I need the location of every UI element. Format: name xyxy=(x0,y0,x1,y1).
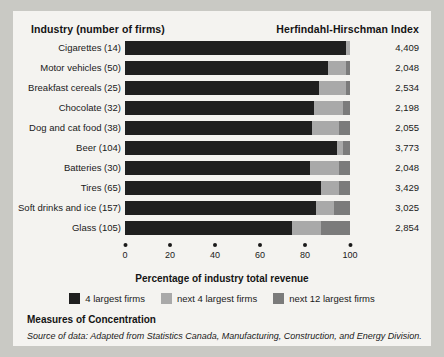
stacked-bar xyxy=(125,201,350,215)
bar-row: Batteries (30)2,048 xyxy=(13,159,431,179)
bar-segment xyxy=(125,61,328,75)
bar-segment xyxy=(339,121,350,135)
bar-row: Chocolate (32)2,198 xyxy=(13,99,431,119)
hhi-value: 2,055 xyxy=(395,122,419,133)
legend-swatch-icon xyxy=(161,293,172,304)
legend-label: 4 largest firms xyxy=(85,293,145,304)
bar-segment xyxy=(343,141,350,155)
stacked-bar xyxy=(125,221,350,235)
bar-segment xyxy=(321,221,350,235)
hhi-column-header: Herfindahl-Hirschman Index xyxy=(276,23,419,35)
hhi-value: 2,198 xyxy=(395,102,419,113)
legend-swatch-icon xyxy=(273,293,284,304)
axis-tick-dot-icon xyxy=(348,243,352,247)
bar-segment xyxy=(125,181,321,195)
bar-segment xyxy=(339,161,350,175)
bar-segment xyxy=(328,61,346,75)
legend-item: 4 largest firms xyxy=(69,293,145,304)
bar-row: Motor vehicles (50)2,048 xyxy=(13,59,431,79)
stacked-bar xyxy=(125,61,350,75)
hhi-value: 2,048 xyxy=(395,62,419,73)
x-axis-title: Percentage of industry total revenue xyxy=(13,273,431,284)
bar-segment xyxy=(321,181,339,195)
stacked-bar xyxy=(125,101,350,115)
axis-tick: 20 xyxy=(165,243,175,260)
chart-header: Industry (number of firms) Herfindahl-Hi… xyxy=(13,23,431,39)
bar-segment xyxy=(337,141,344,155)
bar-segment xyxy=(125,161,310,175)
axis-tick-label: 0 xyxy=(122,250,127,260)
bar-row: Beer (104)3,773 xyxy=(13,139,431,159)
bar-row: Cigarettes (14)4,409 xyxy=(13,39,431,59)
bar-segment xyxy=(292,221,321,235)
hhi-value: 3,773 xyxy=(395,142,419,153)
axis-tick-dot-icon xyxy=(213,243,217,247)
bar-row-label: Glass (105) xyxy=(13,222,121,233)
bar-segment xyxy=(339,181,350,195)
bar-row: Tires (65)3,429 xyxy=(13,179,431,199)
legend-label: next 4 largest firms xyxy=(177,293,257,304)
bar-row-label: Motor vehicles (50) xyxy=(13,62,121,73)
axis-tick: 80 xyxy=(300,243,310,260)
axis-tick-label: 40 xyxy=(210,250,220,260)
bar-row-label: Soft drinks and ice (157) xyxy=(13,202,121,213)
bar-row-label: Batteries (30) xyxy=(13,162,121,173)
hhi-value: 3,025 xyxy=(395,202,419,213)
bar-row: Breakfast cereals (25)2,534 xyxy=(13,79,431,99)
stacked-bar xyxy=(125,81,350,95)
axis-tick-dot-icon xyxy=(258,243,262,247)
bar-segment xyxy=(125,221,292,235)
bar-row-label: Dog and cat food (38) xyxy=(13,122,121,133)
bar-row: Dog and cat food (38)2,055 xyxy=(13,119,431,139)
hhi-value: 3,429 xyxy=(395,182,419,193)
stacked-bar xyxy=(125,121,350,135)
bar-segment xyxy=(310,161,339,175)
hhi-value: 4,409 xyxy=(395,42,419,53)
bar-segment xyxy=(314,101,343,115)
bar-row: Glass (105)2,854 xyxy=(13,219,431,239)
axis-tick: 40 xyxy=(210,243,220,260)
legend-label: next 12 largest firms xyxy=(289,293,375,304)
axis-tick-dot-icon xyxy=(168,243,172,247)
hhi-value: 2,534 xyxy=(395,82,419,93)
chart-caption: Measures of Concentration xyxy=(27,314,156,325)
axis-tick-label: 20 xyxy=(165,250,175,260)
legend-item: next 4 largest firms xyxy=(161,293,257,304)
axis-tick-label: 80 xyxy=(300,250,310,260)
axis-tick-dot-icon xyxy=(303,243,307,247)
axis-tick-dot-icon xyxy=(123,243,127,247)
axis-tick: 100 xyxy=(342,243,357,260)
chart-legend: 4 largest firmsnext 4 largest firmsnext … xyxy=(13,293,431,304)
bar-rows: Cigarettes (14)4,409Motor vehicles (50)2… xyxy=(13,39,431,239)
bar-segment xyxy=(346,61,351,75)
bar-segment xyxy=(125,201,316,215)
bar-segment xyxy=(125,41,346,55)
bar-segment xyxy=(125,121,312,135)
axis-tick: 0 xyxy=(122,243,127,260)
bar-row-label: Chocolate (32) xyxy=(13,102,121,113)
bar-row-label: Tires (65) xyxy=(13,182,121,193)
bar-segment xyxy=(343,101,350,115)
bar-row-label: Beer (104) xyxy=(13,142,121,153)
axis-tick: 60 xyxy=(255,243,265,260)
bar-segment xyxy=(125,141,337,155)
bar-segment xyxy=(319,81,346,95)
legend-item: next 12 largest firms xyxy=(273,293,375,304)
bar-row-label: Cigarettes (14) xyxy=(13,42,121,53)
bar-segment xyxy=(316,201,334,215)
bar-row: Soft drinks and ice (157)3,025 xyxy=(13,199,431,219)
hhi-value: 2,854 xyxy=(395,222,419,233)
bar-segment xyxy=(125,101,314,115)
bar-segment xyxy=(125,81,319,95)
legend-swatch-icon xyxy=(69,293,80,304)
stacked-bar xyxy=(125,161,350,175)
bar-segment xyxy=(346,81,351,95)
bar-segment xyxy=(334,201,350,215)
industry-column-header: Industry (number of firms) xyxy=(31,23,165,35)
stacked-bar xyxy=(125,141,350,155)
axis-tick-label: 100 xyxy=(342,250,357,260)
hhi-value: 2,048 xyxy=(395,162,419,173)
stacked-bar xyxy=(125,181,350,195)
stacked-bar xyxy=(125,41,350,55)
x-axis: 020406080100 xyxy=(125,243,350,273)
